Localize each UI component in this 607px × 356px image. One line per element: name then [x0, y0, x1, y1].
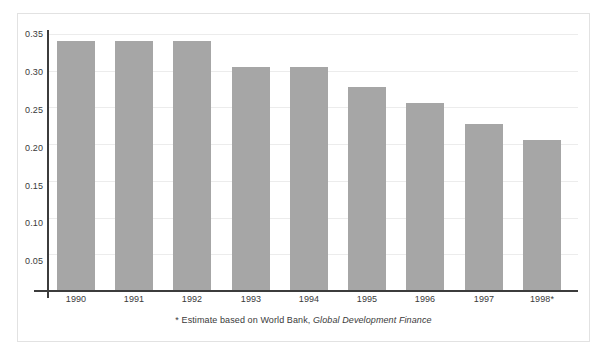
bar-1997: [465, 124, 503, 291]
bar-1995: [348, 87, 386, 291]
chart-footnote: * Estimate based on World Bank, Global D…: [17, 315, 590, 325]
x-tick-label-1993: 1993: [221, 294, 281, 304]
x-tick-label-1998: 1998*: [512, 294, 572, 304]
x-tick-label-1991: 1991: [104, 294, 164, 304]
y-tick-label-035: 0.35: [25, 29, 43, 39]
chart-figure: 0.35 0.30 0.25 0.20 0.15 0.10 0.05 1990 …: [0, 0, 607, 356]
x-tick-label-1992: 1992: [162, 294, 222, 304]
y-tick-label-010: 0.10: [25, 218, 43, 228]
bar-1990: [57, 41, 95, 291]
x-tick-label-1996: 1996: [395, 294, 455, 304]
x-tick-label-1995: 1995: [337, 294, 397, 304]
bar-1994: [290, 67, 328, 291]
y-axis-tick-labels: 0.35 0.30 0.25 0.20 0.15 0.10 0.05: [0, 0, 43, 356]
bar-1996: [406, 103, 444, 291]
bar-1998: [523, 140, 561, 291]
x-axis-line: [34, 290, 578, 292]
y-tick-label-005: 0.05: [25, 256, 43, 266]
y-tick-label-030: 0.30: [25, 67, 43, 77]
x-axis-tick-labels: 1990 1991 1992 1993 1994 1995 1996 1997 …: [49, 294, 578, 310]
x-tick-label-1994: 1994: [279, 294, 339, 304]
y-tick-label-025: 0.25: [25, 105, 43, 115]
y-tick-label-015: 0.15: [25, 181, 43, 191]
bar-1993: [232, 67, 270, 291]
bar-1992: [173, 41, 211, 291]
y-axis-line: [47, 30, 49, 296]
footnote-source-title: Global Development Finance: [313, 315, 432, 325]
y-tick-label-020: 0.20: [25, 143, 43, 153]
bar-1991: [115, 41, 153, 291]
x-tick-label-1990: 1990: [46, 294, 106, 304]
bar-series: [49, 0, 578, 291]
footnote-prefix: * Estimate based on World Bank,: [175, 315, 313, 325]
x-tick-label-1997: 1997: [454, 294, 514, 304]
